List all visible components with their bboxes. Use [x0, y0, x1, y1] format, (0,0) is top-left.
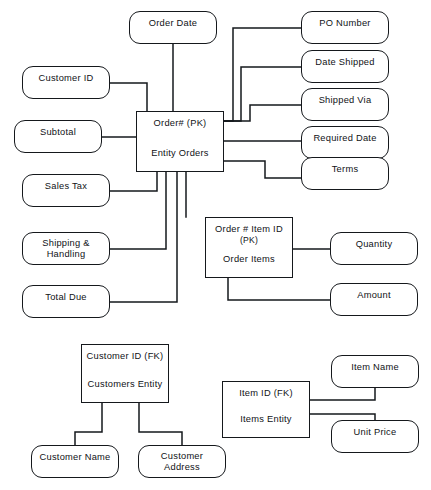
entity-name-line: Customers Entity — [82, 379, 168, 390]
attribute-amount[interactable]: Amount — [330, 283, 418, 316]
entity-key-block: Customer ID (FK) — [82, 351, 168, 362]
attribute-item_name[interactable]: Item Name — [331, 355, 419, 388]
attribute-label: PO Number — [319, 18, 370, 28]
entity-key-line: Order # Item ID — [206, 224, 292, 235]
attribute-customer_address[interactable]: CustomerAddress — [138, 445, 226, 478]
entity-key-line: Order# (PK) — [137, 118, 223, 129]
connector-orders-customer_id — [110, 83, 147, 111]
attribute-quantity[interactable]: Quantity — [330, 232, 418, 265]
connector-orders-total_due — [110, 172, 177, 302]
attribute-label: Subtotal — [40, 127, 76, 137]
entity-items[interactable]: Item ID (FK)Items Entity — [222, 381, 310, 438]
attribute-label: Date Shipped — [315, 57, 374, 67]
attribute-terms[interactable]: Terms — [301, 157, 389, 190]
connector-customers-customer_addr — [139, 403, 182, 445]
attribute-label: CustomerAddress — [161, 451, 203, 472]
connector-customers-customer_name — [75, 403, 102, 445]
entity-name-line: Items Entity — [223, 414, 309, 425]
attribute-label: Customer ID — [39, 73, 94, 83]
entity-orders[interactable]: Order# (PK)Entity Orders — [136, 111, 224, 172]
connector-items-item_name — [310, 388, 375, 400]
attribute-po_number[interactable]: PO Number — [301, 11, 389, 44]
attribute-label: Terms — [332, 164, 359, 174]
connector-orders-date_shipped — [224, 67, 301, 121]
attribute-label: Shipping &Handling — [42, 238, 89, 259]
entity-name-line: Order Items — [206, 254, 292, 265]
attribute-order_date[interactable]: Order Date — [129, 11, 217, 44]
attribute-shipping_handling[interactable]: Shipping &Handling — [22, 232, 110, 265]
attribute-label: Unit Price — [354, 427, 397, 437]
entity-name-line: Entity Orders — [137, 148, 223, 159]
attribute-unit_price[interactable]: Unit Price — [331, 420, 419, 453]
connector-orders-sales_tax — [110, 172, 157, 191]
attribute-label: Required Date — [313, 133, 376, 143]
attribute-label: Amount — [357, 290, 391, 300]
attribute-required_date[interactable]: Required Date — [301, 126, 389, 159]
connector-orders-terms — [224, 161, 301, 178]
entity-key-block: Order# (PK) — [137, 118, 223, 129]
attribute-customer_name[interactable]: Customer Name — [31, 445, 119, 478]
entity-key-line: Customer ID (FK) — [82, 351, 168, 362]
attribute-total_due[interactable]: Total Due — [22, 285, 110, 318]
entity-key-block: Order # Item ID(PK) — [206, 224, 292, 245]
entity-key-line: Item ID (FK) — [223, 388, 309, 399]
attribute-customer_id[interactable]: Customer ID — [22, 66, 110, 99]
entity-key-block: Item ID (FK) — [223, 388, 309, 399]
connector-order_items-amount — [228, 278, 330, 300]
attribute-label: Item Name — [351, 362, 399, 372]
entity-customers[interactable]: Customer ID (FK)Customers Entity — [81, 344, 169, 403]
attribute-label: Shipped Via — [319, 95, 372, 105]
attribute-subtotal[interactable]: Subtotal — [14, 120, 102, 153]
attribute-shipped_via[interactable]: Shipped Via — [301, 88, 389, 121]
attribute-sales_tax[interactable]: Sales Tax — [22, 174, 110, 207]
connector-orders-shipped_via — [224, 105, 301, 121]
attribute-label: Order Date — [149, 18, 198, 28]
connector-orders-po_number — [224, 28, 301, 121]
attribute-date_shipped[interactable]: Date Shipped — [301, 50, 389, 83]
attribute-label: Sales Tax — [45, 181, 87, 191]
entity-key-sub-line: (PK) — [206, 235, 292, 245]
attribute-label: Quantity — [356, 239, 393, 249]
connector-orders-shipping — [110, 172, 166, 249]
entity-order_items[interactable]: Order # Item ID(PK)Order Items — [205, 217, 293, 278]
er-diagram-canvas: Order DatePO NumberDate ShippedShipped V… — [0, 0, 431, 490]
attribute-label: Customer Name — [40, 452, 111, 462]
attribute-label: Total Due — [45, 292, 87, 302]
